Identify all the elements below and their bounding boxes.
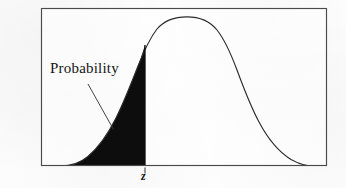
normal-distribution-figure [0,0,346,188]
probability-label: Probability [50,61,119,76]
figure-canvas: Probability z [0,0,346,188]
plot-interior [42,9,327,166]
z-axis-label: z [141,170,146,182]
